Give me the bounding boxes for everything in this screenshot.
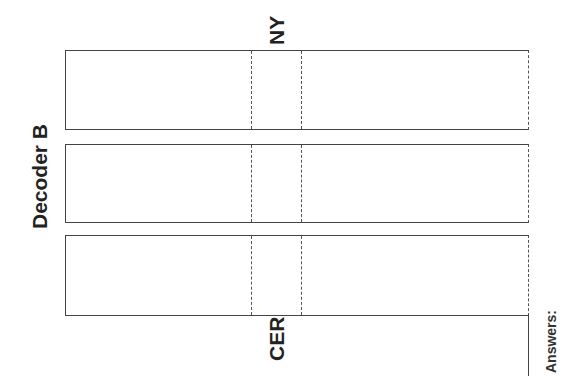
fold-line-left (251, 145, 252, 222)
fold-line-left (251, 51, 252, 129)
fold-label-top: NY (265, 16, 289, 45)
fold-label-bottom: CER (265, 317, 289, 361)
fold-line-right (301, 51, 302, 129)
decoder-strip-2 (65, 144, 529, 223)
answers-label: Answers: (543, 310, 559, 373)
fold-line-right (301, 236, 302, 315)
decoder-strip-3 (65, 235, 529, 316)
decoder-title: Decoder B (28, 124, 52, 229)
fold-line-right (301, 145, 302, 222)
fold-line-left (251, 236, 252, 315)
answer-divider-line (528, 314, 529, 376)
decoder-strip-1 (65, 50, 529, 130)
